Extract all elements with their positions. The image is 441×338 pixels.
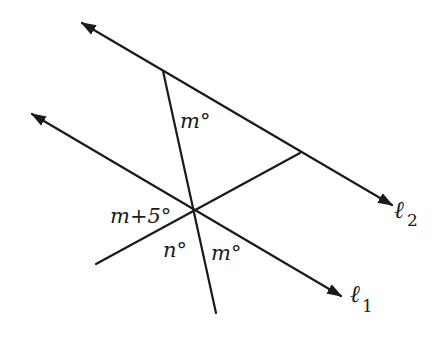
line-l1 [32, 114, 341, 296]
angle-label-m-plus-5: m+5° [110, 204, 171, 228]
label-l1: ℓ 1 [350, 280, 373, 316]
line-l2 [82, 23, 392, 205]
angle-label-n: n° [163, 238, 187, 262]
svg-text:ℓ: ℓ [394, 196, 404, 224]
transversal-line [163, 71, 216, 313]
geometry-diagram: m° m+5° n° m° ℓ 2 ℓ 1 [0, 0, 441, 338]
svg-text:ℓ: ℓ [350, 280, 360, 308]
svg-text:1: 1 [362, 296, 373, 316]
angle-label-top-m: m° [180, 109, 210, 133]
angle-label-bottom-m: m° [211, 241, 241, 265]
svg-text:2: 2 [407, 210, 418, 230]
label-l2: ℓ 2 [394, 196, 418, 230]
